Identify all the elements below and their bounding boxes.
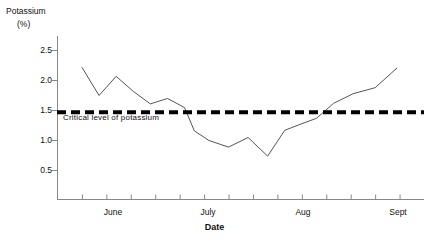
plot-area bbox=[0, 0, 429, 242]
x-tick-marks bbox=[82, 195, 400, 200]
potassium-line-chart: Potassium (%) Date 0.5 1.0 1.5 2.0 2.5 J… bbox=[0, 0, 429, 242]
y-tick-marks bbox=[52, 51, 57, 171]
